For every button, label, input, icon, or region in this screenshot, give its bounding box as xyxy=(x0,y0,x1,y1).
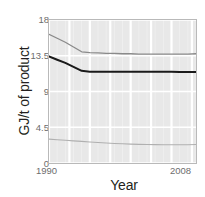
y-tick-label-9: 9 xyxy=(5,87,49,97)
y-tick-label-13-5: 13.5 xyxy=(5,51,49,61)
x-tick-label-1990: 1990 xyxy=(36,166,57,176)
y-tick-label-18: 18 xyxy=(5,15,49,25)
x-tick-label-2008: 2008 xyxy=(170,166,191,176)
y-tick-label-4-5: 4.5 xyxy=(5,123,49,133)
chart-figure: GJ/t of product 18 13.5 9 4.5 0 1990 200… xyxy=(0,0,205,197)
plot-area xyxy=(48,19,197,164)
x-axis-title: Year xyxy=(48,177,200,193)
chart-canvas xyxy=(49,20,196,163)
